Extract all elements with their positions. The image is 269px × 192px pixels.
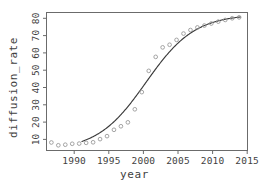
scatter-point — [77, 142, 81, 146]
y-axis-ticks — [43, 18, 47, 139]
scatter-point — [84, 141, 88, 145]
y-tick-label: 60 — [30, 47, 41, 59]
y-tick-label: 10 — [30, 133, 41, 145]
scatter-point — [112, 128, 116, 132]
y-tick-label: 50 — [30, 64, 41, 76]
x-axis-title: year — [0, 168, 269, 181]
plot-canvas: 80 70 60 50 40 30 20 10 1990 1995 2000 2… — [0, 0, 269, 192]
y-axis-tick-labels: 80 70 60 50 40 30 20 10 — [30, 12, 41, 145]
x-tick-label: 2010 — [201, 155, 225, 166]
scatter-point — [91, 140, 95, 144]
scatter-point — [140, 90, 144, 94]
scatter-point — [182, 32, 186, 36]
x-axis-ticks — [74, 151, 247, 155]
y-tick-label: 30 — [30, 99, 41, 111]
y-tick-label: 40 — [30, 82, 41, 94]
scatter-point — [133, 107, 137, 111]
x-tick-label: 2005 — [166, 155, 190, 166]
x-axis-tick-labels: 1990 1995 2000 2005 2010 2015 — [62, 155, 259, 166]
scatter-point — [168, 43, 172, 47]
scatter-point — [98, 137, 102, 141]
x-tick-label: 2000 — [132, 155, 156, 166]
chart-figure: 80 70 60 50 40 30 20 10 1990 1995 2000 2… — [0, 0, 269, 192]
scatter-point — [175, 38, 179, 42]
logistic-fit-curve — [82, 17, 241, 141]
scatter-point — [161, 46, 165, 50]
y-tick-label: 70 — [30, 30, 41, 42]
scatter-point — [105, 134, 109, 138]
y-axis-title: diffusion_rate — [7, 23, 20, 153]
scatter-point — [126, 120, 130, 124]
y-tick-label: 20 — [30, 116, 41, 128]
scatter-point — [56, 143, 60, 147]
scatter-point — [70, 142, 74, 146]
scatter-point — [189, 28, 193, 32]
scatter-point — [119, 124, 123, 128]
x-tick-label: 1990 — [62, 155, 86, 166]
scatter-point — [154, 55, 158, 59]
y-tick-label: 80 — [30, 12, 41, 24]
scatter-point — [147, 69, 151, 73]
scatter-point — [63, 143, 67, 147]
scatter-point-group — [50, 16, 241, 148]
x-tick-label: 1995 — [97, 155, 121, 166]
x-tick-label: 2015 — [235, 155, 259, 166]
scatter-point — [50, 141, 54, 145]
